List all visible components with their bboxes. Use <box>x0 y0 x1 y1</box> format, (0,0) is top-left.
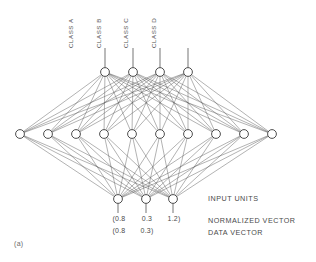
input-node <box>169 195 178 204</box>
normalized-vector-label: NORMALIZED VECTOR <box>208 216 295 225</box>
edge-input-hidden <box>150 136 268 197</box>
input-stem-group <box>118 203 173 213</box>
hidden-node <box>72 130 81 139</box>
data-value-2: 0.3) <box>133 227 161 234</box>
edge-hidden-output <box>109 74 268 133</box>
data-vector-label: DATA VECTOR <box>208 228 263 237</box>
edge-hidden-output <box>51 75 102 131</box>
edge-input-hidden <box>161 138 172 194</box>
edge-hidden-output <box>192 75 269 132</box>
hidden-node <box>100 130 109 139</box>
edge-hidden-output <box>78 76 103 130</box>
edge-input-hidden <box>176 137 241 196</box>
edge-input-hidden <box>80 136 170 196</box>
edge-input-hidden <box>148 138 185 196</box>
edge-group-input-to-hidden <box>24 136 269 198</box>
edge-input-hidden <box>174 138 187 194</box>
edge-hidden-output <box>164 74 268 132</box>
input-node-group <box>114 195 178 204</box>
edge-group-hidden-to-output <box>24 74 269 133</box>
output-node <box>156 68 165 77</box>
hidden-node <box>212 130 221 139</box>
hidden-node <box>44 130 53 139</box>
output-node <box>184 68 193 77</box>
edge-input-hidden <box>79 137 143 196</box>
hidden-node <box>184 130 193 139</box>
edge-input-hidden <box>24 136 169 198</box>
edge-input-hidden <box>52 136 169 197</box>
edge-input-hidden <box>24 136 115 196</box>
input-node <box>114 195 123 204</box>
data-value-1: (0.8 <box>105 227 133 234</box>
output-node-group <box>101 68 193 77</box>
figure-label: (a) <box>14 240 23 247</box>
output-stem-group <box>105 48 188 68</box>
input-units-label: INPUT UNITS <box>208 194 259 203</box>
hidden-node <box>128 130 137 139</box>
hidden-node <box>156 130 165 139</box>
neural-network-figure: CLASS A CLASS B CLASS C CLASS D INPUT UN… <box>0 0 316 262</box>
hidden-node <box>16 130 25 139</box>
edge-hidden-output <box>109 74 212 132</box>
input-node <box>142 195 151 204</box>
hidden-node <box>240 130 249 139</box>
hidden-node <box>268 130 277 139</box>
edge-input-hidden <box>134 138 170 196</box>
output-node <box>129 68 138 77</box>
edge-input-hidden <box>177 136 269 196</box>
normalized-value-1: (0.8 <box>105 215 133 222</box>
edge-input-hidden <box>106 138 143 196</box>
normalized-value-2: 0.3 <box>133 215 161 222</box>
normalized-value-3: 1.2) <box>160 215 188 222</box>
output-node <box>101 68 110 77</box>
class-label-d: CLASS D <box>151 18 191 48</box>
edge-input-hidden <box>150 136 241 196</box>
